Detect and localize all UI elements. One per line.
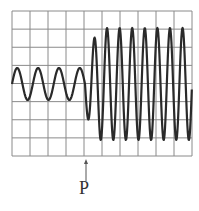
oscilloscope-figure (0, 0, 199, 211)
point-label: P (79, 178, 89, 199)
